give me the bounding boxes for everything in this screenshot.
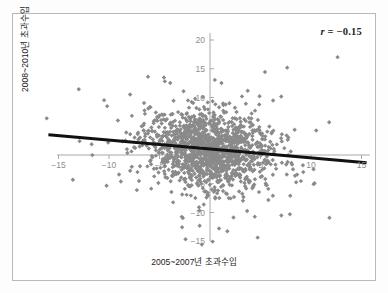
x-tick-label: −15	[45, 161, 73, 170]
x-tick-label: −10	[95, 161, 123, 170]
y-tick-label: 0	[178, 151, 205, 160]
y-tick-label: 15	[178, 65, 205, 74]
y-tick-label: 20	[178, 36, 205, 45]
correlation-annotation: r = −0.15	[321, 26, 363, 37]
x-tick-label: −5	[146, 161, 174, 170]
x-tick-label: 5	[247, 161, 275, 170]
figure-container: −15−10−5051015−15−10−505101520 r = −0.15…	[0, 0, 388, 293]
x-tick-label: 0	[196, 161, 224, 170]
x-tick-label: 15	[348, 161, 376, 170]
y-tick-label: −5	[178, 180, 205, 189]
correlation-r-value: = −0.15	[325, 26, 362, 37]
y-tick-label: 5	[178, 122, 205, 131]
y-tick-label: −10	[178, 209, 205, 218]
y-tick-label: 10	[178, 94, 205, 103]
y-tick-label: −15	[178, 237, 205, 246]
y-axis-title: 2008~2010년 초과수입	[18, 0, 30, 92]
x-tick-label: 10	[297, 161, 325, 170]
x-axis-title: 2005~2007년 초과수입	[0, 255, 388, 267]
